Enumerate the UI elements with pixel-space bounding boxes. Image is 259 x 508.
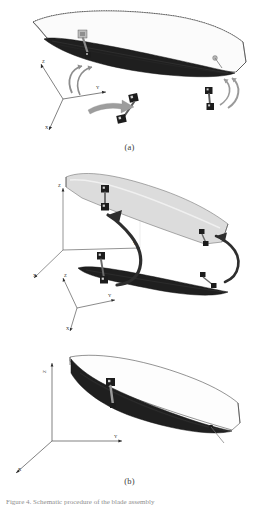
panel-b: Z Y X Y Z X (b) [0, 158, 259, 333]
panel-a: Y Z X (a) [0, 0, 259, 158]
axis-label-z-c: Z [42, 370, 47, 373]
axis-label-x-a: X [45, 125, 49, 130]
panel-b-graphic: Z Y X Y Z X [0, 158, 259, 333]
axis-label-y-c: Y [114, 434, 118, 439]
axis-label-y-a: Y [96, 85, 100, 90]
panel-a-graphic: Y Z X [0, 0, 259, 158]
axis2-label-z-b: Z [64, 273, 67, 278]
axis-label-x-c: X [18, 467, 22, 472]
panel-c-graphic: Z Y X [0, 333, 259, 488]
rotation-arrow-root [69, 65, 92, 95]
panel-label-a: (a) [0, 142, 259, 152]
axis2-label-y-b: Y [108, 293, 112, 298]
axis-label-z-b: Z [58, 183, 61, 188]
figure-caption: Figure 4. Schematic procedure of the bla… [6, 498, 253, 507]
figure-container: Y Z X (a) [0, 0, 259, 508]
axis-label-z-a: Z [42, 59, 45, 64]
sensor-tip-detached [205, 87, 214, 110]
coordinate-frame-a: Y Z X [41, 59, 106, 130]
axis2-label-x-b: X [66, 326, 70, 331]
sensor-lower-tip [200, 272, 217, 288]
rotation-arrow-tip [220, 78, 238, 108]
panel-c: Z Y X (c) [0, 333, 259, 488]
